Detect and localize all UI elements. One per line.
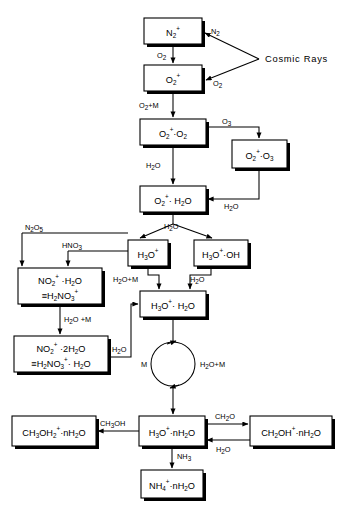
svg-text:NH4+·nH2O: NH4+·nH2O: [149, 478, 195, 492]
edge-label-hno3: HNO3: [62, 241, 82, 251]
node-hydroxymethyl-cation: CH2OH+·nH2O: [250, 416, 335, 449]
edge-label-h2o-1: H2O: [146, 161, 161, 171]
edge-o2po2-o2po3: [206, 127, 259, 138]
svg-text:O2+·O2: O2+·O2: [159, 126, 188, 140]
cosmic-rays-label: Cosmic Rays: [265, 53, 328, 64]
edge-label-h2o-split: H2O: [164, 222, 179, 232]
svg-text:H3O+· H2O: H3O+· H2O: [151, 298, 195, 312]
reaction-flow-diagram: N2+ O2+ O2+·O2 O2+·O3 O2+· H2O H3O+ H3O+…: [0, 0, 339, 506]
edge-label-n2o5: N2O5: [25, 223, 44, 233]
edge-label-o2-feed: O2: [213, 79, 223, 89]
node-ammonium-cluster: NH4+·nH2O: [141, 470, 206, 501]
edge-label-ch2o: CH2O: [215, 412, 235, 422]
edge-label-n2-to-o2: O2: [157, 51, 167, 61]
edge-label-h2o-back: H2O: [216, 445, 231, 455]
edge-label-h2o-plus-m-left: H2O +M: [64, 315, 91, 325]
node-h3o-oh-cluster: H3O+·OH: [194, 240, 251, 269]
svg-text:O2+· H2O: O2+· H2O: [154, 193, 191, 207]
node-o2-h2o-cluster: O2+· H2O: [140, 186, 209, 215]
node-h3o-h2o-cluster: H3O+· H2O: [140, 291, 209, 320]
edge-split-right: [173, 224, 212, 238]
recycle-loop-circle: [151, 342, 195, 386]
edge-o2po3-o2ph2o: [208, 168, 259, 199]
node-no2-2h2o-cluster: NO2+ ·2H2O ≡H2NO3+· H2O: [14, 336, 111, 375]
edge-label-o3: O3: [222, 117, 232, 127]
svg-text:NO2+ ·2H2O: NO2+ ·2H2O: [36, 341, 85, 355]
node-o2-o2-cluster: O2+·O2: [140, 119, 209, 148]
node-n2-cation: N2+: [144, 18, 205, 47]
edge-label-h2o-4: H2O: [190, 275, 205, 285]
edge-label-h2o-plus-m: H2O+M: [113, 275, 138, 285]
node-no2-h2o-cluster: NO2+ ·H2O ≡H2NO3+: [18, 268, 105, 307]
edge-h3op-h3oph2o: [148, 266, 159, 289]
node-hydronium: H3O+: [128, 240, 171, 269]
edge-label-h2o-2: H2O: [224, 202, 239, 212]
cosmic-ray-source: Cosmic Rays: [205, 33, 328, 80]
node-o2-o3-cluster: O2+·O3: [232, 140, 290, 171]
svg-text:O2+·O3: O2+·O3: [245, 148, 274, 162]
svg-text:NO2+ ·H2O: NO2+ ·H2O: [38, 273, 82, 287]
node-o2-cation: O2+: [144, 65, 205, 94]
node-h3o-nh2o-cluster: H3O+·nH2O: [139, 416, 208, 449]
edge-label-m: M: [141, 360, 147, 369]
edge-label-o2-plus-m: O2+M: [139, 101, 159, 111]
edge-label-h2o-plus-m-right: H2O+M: [200, 360, 225, 370]
edge-label-nh3: NH3: [177, 452, 192, 462]
edge-label-n2-feed: N2: [211, 27, 220, 37]
edge-label-ch3oh: CH3OH: [100, 419, 125, 429]
node-protonated-methanol: CH3OH2+·nH2O: [12, 416, 99, 449]
edge-label-h2o-3: H2O: [112, 345, 127, 355]
